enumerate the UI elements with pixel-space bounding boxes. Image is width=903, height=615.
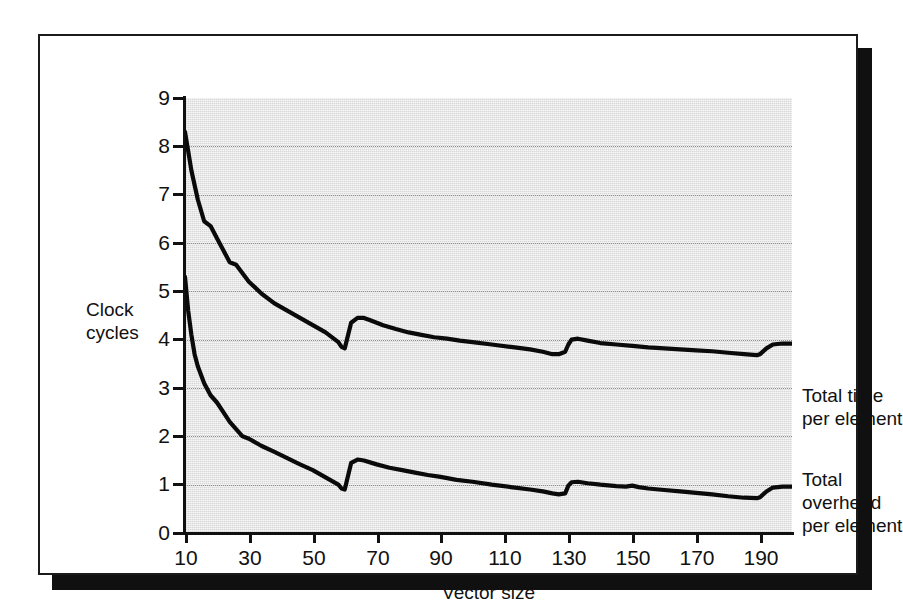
x-tick-label-110: 110 [475, 546, 535, 570]
x-tick-50 [313, 532, 316, 543]
x-tick-10 [185, 532, 188, 543]
x-tick-label-10: 10 [156, 546, 216, 570]
x-tick-150 [632, 532, 635, 543]
series-label-total-time-line2: per element [802, 407, 903, 430]
y-tick-0 [173, 532, 185, 535]
series-label-total-overhead-line1: Total [802, 468, 903, 491]
x-tick-label-130: 130 [539, 546, 599, 570]
y-tick-2 [173, 435, 185, 438]
x-tick-110 [504, 532, 507, 543]
series-label-total-time: Total time per element [802, 384, 903, 430]
y-tick-label-2: 2 [140, 425, 170, 446]
x-tick-30 [249, 532, 252, 543]
x-axis-title: Vector size [185, 582, 792, 604]
x-tick-label-50: 50 [284, 546, 344, 570]
y-tick-label-9: 9 [140, 87, 170, 108]
y-tick-label-1: 1 [140, 473, 170, 494]
series-label-total-overhead-line3: per element [802, 514, 903, 537]
y-tick-7 [173, 193, 185, 196]
x-tick-label-90: 90 [411, 546, 471, 570]
y-tick-label-3: 3 [140, 377, 170, 398]
y-axis-title-line: Clock cycles [86, 298, 178, 344]
y-tick-8 [173, 145, 185, 148]
series-line-total-time [185, 132, 792, 355]
y-tick-label-0: 0 [140, 522, 170, 543]
series-label-total-overhead: Total overhead per element [802, 468, 903, 537]
x-tick-label-170: 170 [667, 546, 727, 570]
y-tick-label-8: 8 [140, 135, 170, 156]
x-tick-label-30: 30 [220, 546, 280, 570]
y-tick-3 [173, 387, 185, 390]
x-tick-label-190: 190 [731, 546, 791, 570]
series-line-total-overhead [185, 277, 792, 498]
x-tick-170 [696, 532, 699, 543]
y-tick-9 [173, 97, 185, 100]
series-label-total-overhead-line2: overhead [802, 491, 903, 514]
x-tick-label-70: 70 [348, 546, 408, 570]
y-tick-6 [173, 242, 185, 245]
series-label-total-time-line1: Total time [802, 384, 903, 407]
figure-frame: 9 8 7 6 5 4 3 2 1 0 10 30 50 70 90 110 1… [38, 34, 858, 575]
x-tick-130 [568, 532, 571, 543]
y-axis-title: Clock cycles [86, 298, 178, 344]
x-tick-90 [440, 532, 443, 543]
y-tick-5 [173, 290, 185, 293]
y-tick-label-6: 6 [140, 232, 170, 253]
x-tick-label-150: 150 [603, 546, 663, 570]
x-tick-70 [377, 532, 380, 543]
y-tick-label-7: 7 [140, 183, 170, 204]
y-tick-1 [173, 483, 185, 486]
curves-layer [185, 98, 792, 533]
x-tick-190 [760, 532, 763, 543]
